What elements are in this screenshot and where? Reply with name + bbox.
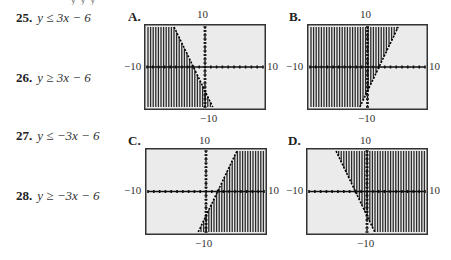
graph-d-label: D. [288, 133, 301, 149]
graph-a-xmax: 10 [267, 60, 278, 72]
rhs: −3x − 6 [57, 128, 100, 143]
relation: ≤ [46, 10, 53, 25]
graph-c-ymax: 10 [199, 134, 210, 146]
exercise-25: 25.y ≤ 3x − 6 [16, 10, 91, 26]
graph-b [307, 24, 428, 110]
graph-a-label: A. [128, 9, 141, 25]
graph-d [306, 148, 428, 235]
graph-c-ymin: −10 [195, 237, 212, 249]
exercise-26: 26.y ≥ 3x − 6 [16, 70, 91, 86]
graph-c-xmax: 10 [268, 184, 279, 196]
graph-a-ymax: 10 [197, 8, 208, 20]
relation: ≤ [46, 128, 53, 143]
graph-b-xmax: 10 [429, 60, 440, 72]
lhs: y [37, 10, 43, 25]
rhs: 3x − 6 [57, 10, 91, 25]
lhs: y [37, 70, 43, 85]
graph-c-label: C. [128, 133, 141, 149]
exercise-number: 28. [16, 188, 32, 203]
graph-b-xmin: −10 [286, 60, 303, 72]
graph-b-label: B. [289, 9, 301, 25]
exercise-number: 26. [16, 70, 32, 85]
graph-b-ymin: −10 [358, 112, 375, 124]
exercise-28: 28.y ≥ −3x − 6 [16, 188, 100, 204]
rhs: −3x − 6 [57, 188, 100, 203]
graph-a-ymin: −10 [200, 112, 217, 124]
graph-d-xmin: −10 [286, 184, 303, 196]
graph-c [145, 148, 267, 235]
lhs: y [37, 188, 43, 203]
graph-d-xmax: 10 [429, 184, 440, 196]
relation: ≥ [46, 188, 53, 203]
graph-c-xmin: −10 [124, 184, 141, 196]
graph-a [144, 24, 266, 110]
cut-off-text-top: y y y [0, 0, 451, 5]
graph-d-ymax: 10 [360, 134, 371, 146]
exercise-number: 27. [16, 128, 32, 143]
exercise-number: 25. [16, 10, 32, 25]
lhs: y [37, 128, 43, 143]
graph-b-ymax: 10 [360, 8, 371, 20]
graph-d-ymin: −10 [357, 237, 374, 249]
graph-a-xmin: −10 [124, 60, 141, 72]
exercise-27: 27.y ≤ −3x − 6 [16, 128, 100, 144]
relation: ≥ [46, 70, 53, 85]
rhs: 3x − 6 [57, 70, 91, 85]
